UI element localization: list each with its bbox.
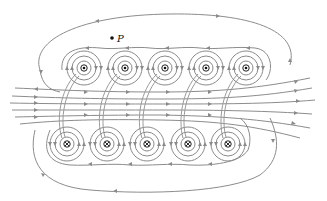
conductor-bottom-3 [128,127,166,161]
point-p-marker: P [110,33,124,44]
conductor-bottom-4 [169,127,207,161]
conductor-bottom-1 [48,127,86,161]
bottom-row-conductors [48,127,247,161]
point-p-dot [110,36,114,40]
magnetic-field-diagram: P [0,0,327,201]
interior-field-lines [10,78,315,138]
conductor-bottom-2 [88,127,126,161]
top-row-conductors [65,51,265,85]
point-p-label: P [116,33,124,44]
